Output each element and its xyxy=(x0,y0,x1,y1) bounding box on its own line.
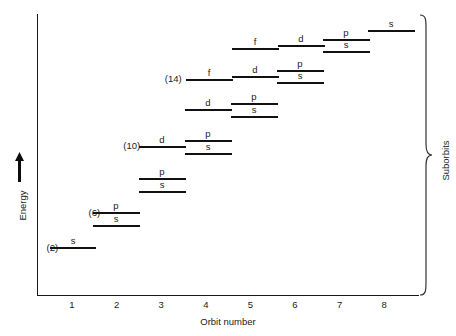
capacity-label: (2) xyxy=(28,242,58,253)
energy-level-line xyxy=(232,76,279,78)
subshell-label: s xyxy=(197,141,219,152)
suborbits-brace-icon xyxy=(419,14,433,296)
capacity-label: (10) xyxy=(110,140,140,151)
energy-level-line xyxy=(185,153,232,155)
subshell-label: s xyxy=(105,213,127,224)
subshell-label: p xyxy=(289,58,311,69)
subshell-label: d xyxy=(290,33,312,44)
x-tick-label-7: 7 xyxy=(330,299,350,311)
subshell-label: s xyxy=(151,179,173,190)
energy-level-line xyxy=(323,51,370,53)
subshell-label: p xyxy=(243,91,265,102)
subshell-label: f xyxy=(244,36,266,47)
subshell-label: p xyxy=(197,128,219,139)
energy-level-line xyxy=(368,30,415,32)
y-axis-title: Energy xyxy=(17,176,28,236)
x-tick-label-5: 5 xyxy=(240,299,260,311)
x-tick-label-8: 8 xyxy=(374,299,394,311)
y-axis-line xyxy=(37,14,38,296)
energy-level-line xyxy=(186,79,233,81)
energy-level-diagram: Energy spspsdpsdpsfdpsfdpss (2)(6)(10)(1… xyxy=(0,0,456,336)
energy-level-line xyxy=(232,48,279,50)
subshell-label: s xyxy=(335,39,357,50)
capacity-label: (6) xyxy=(70,207,100,218)
subshell-label: s xyxy=(243,104,265,115)
energy-level-line xyxy=(139,146,186,148)
subshell-label: p xyxy=(335,27,357,38)
x-tick-label-3: 3 xyxy=(151,299,171,311)
suborbits-label: Suborbits xyxy=(440,121,451,201)
x-tick-label-6: 6 xyxy=(285,299,305,311)
energy-level-line xyxy=(93,225,140,227)
x-axis-line xyxy=(37,295,419,296)
energy-level-line xyxy=(139,191,186,193)
subshell-label: f xyxy=(198,67,220,78)
subshell-label: s xyxy=(380,18,402,29)
subshell-label: p xyxy=(151,166,173,177)
energy-level-line xyxy=(277,82,324,84)
subshell-label: d xyxy=(244,64,266,75)
x-tick-label-2: 2 xyxy=(107,299,127,311)
subshell-label: d xyxy=(151,134,173,145)
subshell-label: s xyxy=(289,70,311,81)
x-axis-title: Orbit number xyxy=(0,316,456,327)
energy-level-line xyxy=(231,116,278,118)
x-tick-label-1: 1 xyxy=(62,299,82,311)
energy-level-line xyxy=(278,45,325,47)
subshell-label: d xyxy=(197,97,219,108)
energy-level-line xyxy=(185,109,232,111)
x-tick-label-4: 4 xyxy=(196,299,216,311)
capacity-label: (14) xyxy=(152,73,182,84)
subshell-label: s xyxy=(62,235,84,246)
subshell-label: p xyxy=(105,200,127,211)
